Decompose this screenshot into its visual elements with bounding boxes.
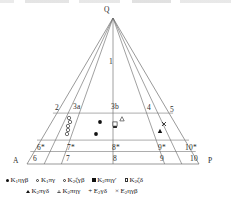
data-point-open-circle bbox=[68, 120, 71, 123]
plus-icon: + bbox=[88, 188, 92, 195]
data-point-open-circle bbox=[66, 128, 69, 131]
legend-item: K2πηγ′ bbox=[92, 177, 116, 184]
legend-item-label: K1πγ bbox=[41, 177, 55, 184]
data-point-open-triangle bbox=[120, 117, 124, 121]
legend-item-label: E2γδ bbox=[94, 188, 107, 195]
legend-item-label: E2ηγβ bbox=[120, 188, 137, 195]
filled-square-icon bbox=[92, 178, 95, 181]
data-point-open-circle bbox=[65, 132, 68, 135]
data-point-times bbox=[162, 122, 166, 126]
open-triangle-icon bbox=[57, 190, 61, 193]
legend-item: ×E2ηγβ bbox=[115, 188, 138, 195]
legend-item: K1πγ bbox=[36, 177, 55, 184]
legend-item: K2ζγβ bbox=[63, 177, 84, 184]
open-circle-icon bbox=[36, 179, 39, 182]
data-point-filled-circle bbox=[94, 132, 98, 136]
legend-item-label: K2πηγ bbox=[63, 188, 81, 195]
times-icon: × bbox=[115, 188, 119, 195]
legend-item: K1ηγβ bbox=[6, 177, 28, 184]
legend-item: K2ζδ bbox=[125, 177, 143, 184]
data-point-filled-circle bbox=[98, 120, 102, 124]
legend-item: K2πγδ bbox=[26, 188, 49, 195]
legend-row-2: K2πγδK2πηγ+E2γδ×E2ηγβ bbox=[0, 185, 231, 197]
data-point-filled-triangle bbox=[158, 129, 162, 133]
legend-item-label: K2πγδ bbox=[32, 188, 50, 195]
filled-triangle-icon bbox=[26, 190, 30, 193]
page-edge-artifact bbox=[0, 0, 231, 3]
data-point-open-circle bbox=[67, 116, 70, 119]
ternary-plot: Q A P 1 2 3a 3b 4 5 6* 7* 8* 9* 10* 6 7 … bbox=[0, 4, 231, 172]
legend-item: K2πηγ bbox=[57, 188, 80, 195]
legend-item-label: K2πηγ′ bbox=[97, 177, 116, 184]
data-point-open-square bbox=[113, 122, 117, 126]
open-circle-icon bbox=[63, 179, 66, 182]
legend-item-label: K2ζδ bbox=[129, 177, 143, 184]
data-point-open-circle bbox=[66, 124, 69, 127]
legend-item-label: K1ηγβ bbox=[11, 177, 29, 184]
filled-circle-icon bbox=[6, 179, 9, 182]
figure-root: Q A P 1 2 3a 3b 4 5 6* 7* 8* 9* 10* 6 7 … bbox=[0, 0, 231, 209]
legend: K1ηγβK1πγK2ζγβK2πηγ′K2ζδ K2πγδK2πηγ+E2γδ… bbox=[0, 172, 231, 209]
legend-item-label: K2ζγβ bbox=[68, 177, 85, 184]
open-square-icon bbox=[125, 178, 128, 181]
legend-item: +E2γδ bbox=[88, 188, 107, 195]
data-point-layer bbox=[0, 4, 231, 172]
